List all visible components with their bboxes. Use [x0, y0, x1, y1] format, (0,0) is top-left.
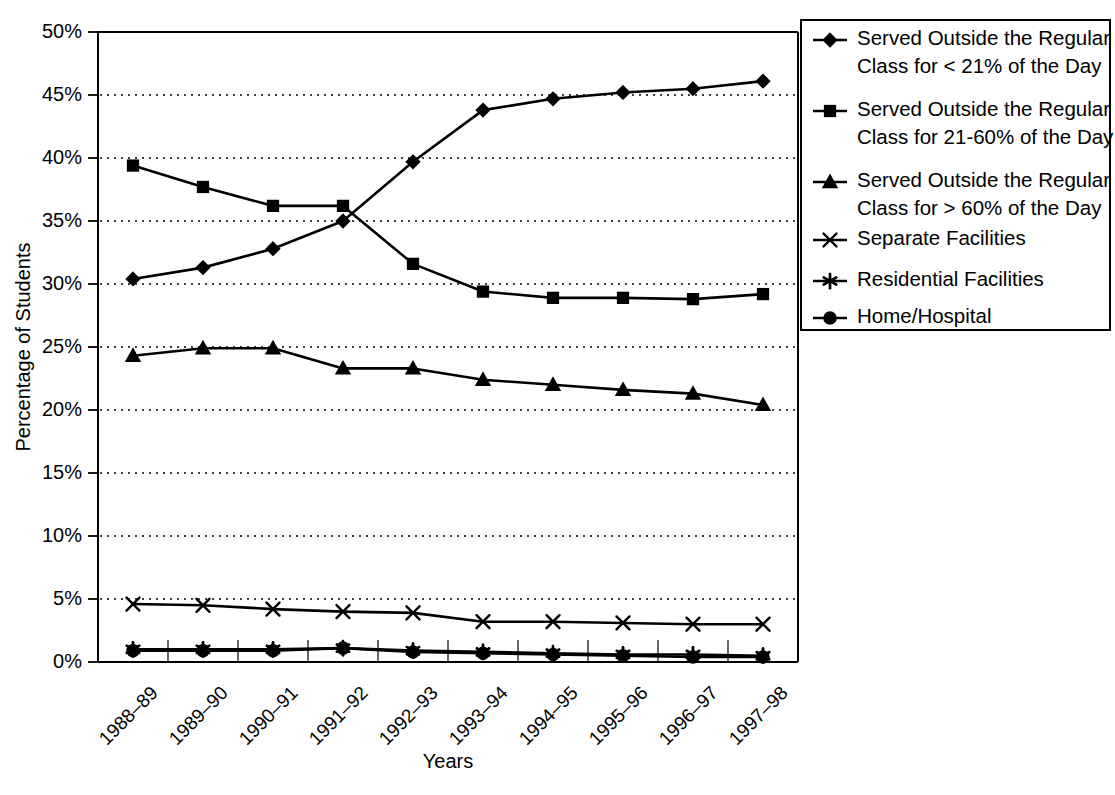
data-point-square-5 [478, 286, 489, 297]
data-point-diamond-2 [267, 242, 280, 255]
y-tick-label-35%: 35% [42, 209, 82, 231]
x-tick-label-1993–94: 1993–94 [445, 682, 512, 749]
data-point-circle-8 [687, 651, 699, 663]
gridlines-group [100, 32, 798, 599]
series-line-diamond [133, 81, 763, 279]
data-point-circle-1 [197, 645, 209, 657]
series-square [128, 160, 769, 304]
data-point-square-4 [408, 259, 419, 270]
data-point-circle-5 [477, 647, 489, 659]
data-point-circle-2 [267, 645, 279, 657]
chart-container: 0%5%10%15%20%25%30%35%40%45%50% 1988–891… [0, 0, 1115, 795]
y-tick-label-40%: 40% [42, 146, 82, 168]
x-axis-title: Years [423, 750, 473, 772]
y-tick-label-20%: 20% [42, 398, 82, 420]
data-point-diamond-7 [617, 86, 630, 99]
y-tick-label-45%: 45% [42, 83, 82, 105]
data-point-circle-4 [407, 646, 419, 658]
y-tick-label-25%: 25% [42, 335, 82, 357]
legend-label-line1: Served Outside the Regular [857, 26, 1110, 49]
legend-marker-square-icon [825, 106, 836, 117]
legend-label-line1: Separate Facilities [857, 226, 1026, 249]
x-tick-label-1991–92: 1991–92 [305, 682, 372, 749]
data-point-square-3 [338, 201, 349, 212]
legend-label-line2: Class for < 21% of the Day [857, 54, 1102, 77]
legend-marker-circle-icon [824, 312, 836, 324]
data-point-square-1 [198, 182, 209, 193]
data-point-square-7 [618, 293, 629, 304]
data-series-group [126, 75, 770, 663]
series-diamond [127, 75, 770, 286]
data-point-square-8 [688, 294, 699, 305]
y-tick-label-15%: 15% [42, 461, 82, 483]
legend-label-line1: Served Outside the Regular [857, 97, 1110, 120]
x-tick-label-1995–96: 1995–96 [585, 682, 652, 749]
data-point-diamond-8 [687, 82, 700, 95]
legend-label-line1: Home/Hospital [857, 304, 991, 327]
series-line-square [133, 166, 763, 300]
data-point-circle-9 [757, 651, 769, 663]
y-axis-title: Percentage of Students [12, 242, 34, 451]
y-tick-label-30%: 30% [42, 272, 82, 294]
y-tick-label-0%: 0% [53, 650, 82, 672]
data-point-circle-6 [547, 648, 559, 660]
legend-label-line1: Residential Facilities [857, 267, 1044, 290]
data-point-square-2 [268, 201, 279, 212]
legend-label-line2: Class for > 60% of the Day [857, 196, 1102, 219]
data-point-circle-3 [337, 642, 349, 654]
x-tick-label-1989–90: 1989–90 [165, 682, 232, 749]
data-point-square-6 [548, 293, 559, 304]
line-chart: 0%5%10%15%20%25%30%35%40%45%50% 1988–891… [0, 0, 1115, 795]
data-point-square-9 [758, 289, 769, 300]
legend: Served Outside the RegularClass for < 21… [801, 20, 1114, 330]
x-tick-label-1994–95: 1994–95 [515, 682, 582, 749]
x-tick-label-1990–91: 1990–91 [235, 682, 302, 749]
y-tick-labels-group: 0%5%10%15%20%25%30%35%40%45%50% [42, 20, 82, 672]
x-tick-label-1988–89: 1988–89 [95, 682, 162, 749]
y-tick-label-10%: 10% [42, 524, 82, 546]
y-tick-label-5%: 5% [53, 587, 82, 609]
x-tick-label-1992–93: 1992–93 [375, 682, 442, 749]
data-point-diamond-1 [197, 261, 210, 274]
data-point-circle-7 [617, 650, 629, 662]
x-tick-label-1996–97: 1996–97 [655, 682, 722, 749]
series-line-triangle [133, 348, 763, 405]
data-point-square-0 [128, 160, 139, 171]
y-tick-label-50%: 50% [42, 20, 82, 42]
series-x [127, 598, 770, 631]
data-point-diamond-9 [757, 75, 770, 88]
series-triangle [126, 341, 770, 410]
data-point-circle-0 [127, 645, 139, 657]
x-tick-label-1997–98: 1997–98 [725, 682, 792, 749]
legend-label-line1: Served Outside the Regular [857, 168, 1110, 191]
series-line-x [133, 604, 763, 624]
legend-label-line2: Class for 21-60% of the Day [857, 125, 1114, 148]
